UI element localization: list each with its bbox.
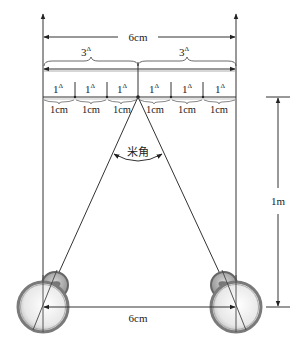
svg-text:1Δ: 1Δ bbox=[117, 82, 128, 95]
prism-symbol: Δ bbox=[58, 82, 63, 90]
svg-text:1Δ: 1Δ bbox=[149, 82, 160, 95]
unit-cm-labels: 1cm 1cm 1cm 1cm 1cm 1cm bbox=[50, 104, 228, 115]
vertical-distance-label: 1m bbox=[271, 195, 286, 207]
prism-symbol: Δ bbox=[187, 82, 192, 90]
prism-symbol: Δ bbox=[90, 82, 95, 90]
top-distance-label: 6cm bbox=[129, 31, 148, 43]
unit-cm-label: 1cm bbox=[146, 104, 164, 115]
meter-angle-diagram: 6cm 3Δ 3Δ 1Δ 1Δ 1Δ 1Δ 1Δ 1Δ bbox=[0, 0, 299, 347]
unit-cm-label: 1cm bbox=[178, 104, 196, 115]
unit-cm-label: 1cm bbox=[82, 104, 100, 115]
half-prism-braces: 3Δ 3Δ bbox=[44, 45, 236, 66]
unit-prism-labels: 1Δ 1Δ 1Δ 1Δ 1Δ 1Δ bbox=[53, 82, 226, 95]
meter-angle-label: 米角 bbox=[127, 146, 149, 159]
svg-text:3Δ: 3Δ bbox=[81, 45, 92, 58]
prism-symbol: Δ bbox=[86, 45, 91, 53]
unit-cm-label: 1cm bbox=[210, 104, 228, 115]
prism-symbol: Δ bbox=[220, 82, 225, 90]
prism-symbol: Δ bbox=[184, 45, 189, 53]
unit-cm-label: 1cm bbox=[50, 104, 68, 115]
vertical-distance-dimension: 1m bbox=[266, 97, 290, 307]
unit-cm-label: 1cm bbox=[113, 104, 131, 115]
svg-text:3Δ: 3Δ bbox=[179, 45, 190, 58]
svg-text:1Δ: 1Δ bbox=[53, 82, 64, 95]
prism-symbol: Δ bbox=[154, 82, 159, 90]
svg-text:1Δ: 1Δ bbox=[182, 82, 193, 95]
svg-text:1Δ: 1Δ bbox=[215, 82, 226, 95]
pupil-distance-label: 6cm bbox=[129, 312, 148, 324]
svg-text:1Δ: 1Δ bbox=[85, 82, 96, 95]
prism-symbol: Δ bbox=[122, 82, 127, 90]
top-distance-dimension: 6cm bbox=[44, 31, 235, 43]
